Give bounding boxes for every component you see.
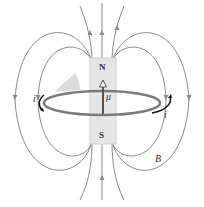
field-label: B	[155, 154, 161, 164]
current-label-right: i	[164, 110, 167, 120]
south-pole-label: S	[99, 131, 104, 140]
current-label-left: i	[33, 94, 36, 104]
north-pole-label: N	[99, 63, 106, 72]
dipole-diagram	[0, 0, 204, 207]
moment-label: μ	[106, 92, 111, 102]
